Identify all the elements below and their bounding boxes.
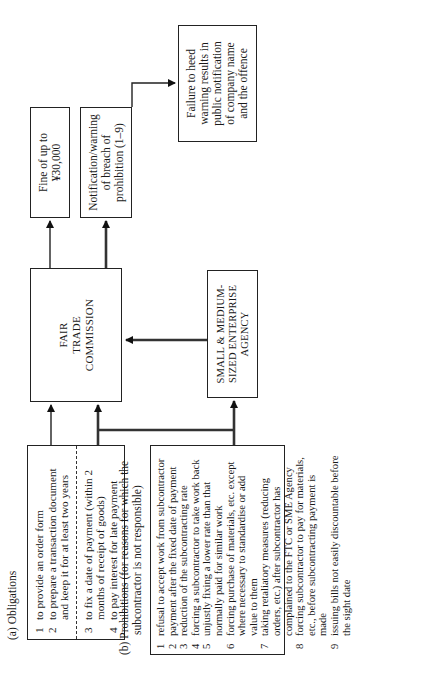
- sme-line: SIZED ENTERPRISE: [227, 285, 239, 383]
- failure-line: and the offence: [237, 48, 250, 119]
- fine-amount: ¥30,000: [50, 144, 63, 181]
- item-number: 9: [329, 636, 352, 649]
- item-text: to fix a date of payment (within 2 month…: [82, 452, 107, 620]
- sme-line: SMALL & MEDIUM-: [215, 285, 227, 384]
- notification-line: Notification/warning: [87, 114, 100, 210]
- item-number: 6: [225, 636, 260, 649]
- prohibition-item: 3reduction of the subcontracting rate: [178, 451, 190, 649]
- item-text: taking retaliatory measures (reducing or…: [259, 451, 294, 636]
- item-number: 3: [82, 620, 107, 633]
- prohibition-item: 2payment after the fixed date of payment: [167, 451, 179, 649]
- item-number: 1: [155, 636, 167, 649]
- item-text: to provide an order form: [33, 452, 46, 620]
- item-text: forcing purchase of materials, etc. exce…: [225, 451, 260, 636]
- prohibition-item: 7taking retaliatory measures (reducing o…: [259, 451, 294, 649]
- sme-agency-box: SMALL & MEDIUM- SIZED ENTERPRISE AGENCY: [207, 270, 258, 398]
- item-number: 8: [294, 636, 329, 649]
- item-text: forcing subcontractor to pay for materia…: [294, 451, 329, 636]
- prohibitions-heading: (b) Prohibitions (for reasons for which …: [118, 461, 144, 655]
- prohibition-item: 9issuing bills not easily discountable b…: [329, 451, 352, 649]
- ftc-line: FAIR: [57, 322, 70, 347]
- diagram-canvas: (a) Obligations 1 to provide an order fo…: [0, 0, 427, 677]
- obligations-box: 1 to provide an order form 2 to prepare …: [27, 445, 125, 640]
- obligation-item: 3 to fix a date of payment (within 2 mon…: [82, 452, 107, 633]
- notification-box: Notification/warning of breach of prohib…: [80, 107, 132, 218]
- item-number: 3: [178, 636, 190, 649]
- item-number: 5: [201, 636, 224, 649]
- obligation-item: 2 to prepare a transaction document and …: [46, 452, 71, 633]
- failure-line: public notification: [211, 41, 224, 126]
- prohibition-item: 5unjustly fixing a lower rate than that …: [201, 451, 224, 649]
- dashed-divider: [76, 446, 77, 639]
- fine-line: Fine of up to: [37, 133, 50, 192]
- item-text: reduction of the subcontracting rate: [178, 451, 190, 636]
- prohibitions-heading-line2: subcontractor is not responsible): [131, 461, 144, 655]
- item-text: refusal to accept work from subcontracto…: [155, 451, 167, 636]
- prohibition-item: 6forcing purchase of materials, etc. exc…: [225, 451, 260, 649]
- fine-box: Fine of up to ¥30,000: [30, 107, 70, 218]
- prohibitions-heading-line1: (b) Prohibitions (for reasons for which …: [118, 461, 131, 655]
- sme-line: AGENCY: [239, 312, 251, 357]
- failure-line: of company name: [224, 42, 237, 124]
- item-text: payment after the fixed date of payment: [167, 451, 179, 636]
- item-number: 1: [33, 620, 46, 633]
- notification-line: prohibition (1–9): [113, 123, 126, 202]
- notification-line: of breach of: [100, 135, 113, 191]
- ftc-line: TRADE: [70, 316, 83, 354]
- item-text: forcing a subcontractor to take work bac…: [190, 451, 202, 636]
- item-text: unjustly fixing a lower rate than that n…: [201, 451, 224, 636]
- item-number: 2: [167, 636, 179, 649]
- public-notification-box: Failure to heed warning results in publi…: [178, 25, 257, 142]
- fair-trade-commission-box: FAIR TRADE COMMISSION: [30, 268, 122, 402]
- failure-line: Failure to heed: [185, 49, 198, 118]
- failure-line: warning results in: [198, 42, 211, 124]
- ftc-line: COMMISSION: [83, 299, 96, 371]
- prohibition-item: 8forcing subcontractor to pay for materi…: [294, 451, 329, 649]
- obligation-item: 1 to provide an order form: [33, 452, 46, 633]
- prohibitions-box: 1refusal to accept work from subcontract…: [150, 445, 285, 655]
- prohibition-item: 4forcing a subcontractor to take work ba…: [190, 451, 202, 649]
- item-number: 2: [46, 620, 71, 633]
- item-number: 7: [259, 636, 294, 649]
- item-text: issuing bills not easily discountable be…: [329, 451, 352, 636]
- item-number: 4: [190, 636, 202, 649]
- prohibition-item: 1refusal to accept work from subcontract…: [155, 451, 167, 649]
- obligations-heading: (a) Obligations: [6, 571, 19, 640]
- item-text: to prepare a transaction document and ke…: [46, 452, 71, 620]
